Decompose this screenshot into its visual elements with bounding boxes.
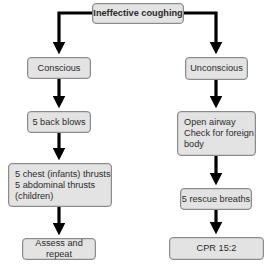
- node-rescue-breaths: 5 rescue breaths: [180, 188, 252, 210]
- node-cpr: CPR 15:2: [169, 237, 264, 260]
- node-open-airway: Open airway Check for foreign body: [177, 111, 256, 156]
- root-node-ineffective-coughing: Ineffective coughing: [92, 3, 184, 24]
- node-conscious: Conscious: [27, 57, 91, 79]
- node-chest-abdominal-thrusts: 5 chest (infants) thrusts 5 abdominal th…: [8, 163, 112, 207]
- arrow-root-to-unconscious: [184, 13, 216, 48]
- node-assess-and-repeat: Assess and repeat: [22, 238, 96, 260]
- node-back-blows: 5 back blows: [27, 111, 91, 133]
- arrow-root-to-conscious: [59, 13, 92, 48]
- node-unconscious: Unconscious: [185, 57, 248, 80]
